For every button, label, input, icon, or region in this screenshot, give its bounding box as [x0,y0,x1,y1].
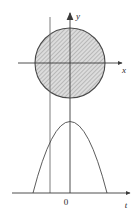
x-axis-label: x [121,65,126,75]
figure-canvas: x y 0 t [0,0,137,219]
origin-label: 0 [64,197,69,207]
y-axis-label: y [75,11,80,21]
math-figure: x y 0 t [0,0,137,219]
